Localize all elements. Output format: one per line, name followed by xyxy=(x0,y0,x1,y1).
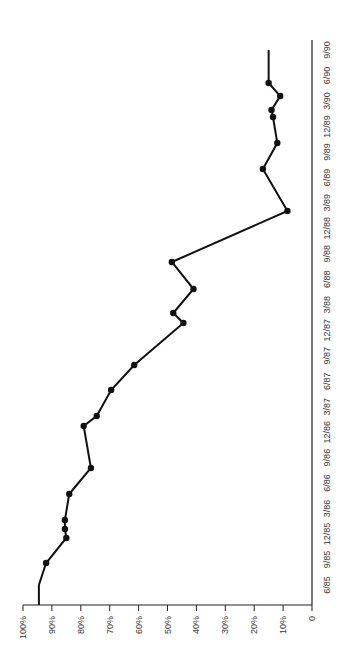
svg-text:12/85: 12/85 xyxy=(322,523,332,546)
chart: 010%20%30%40%50%60%70%80%90%100%6/859/85… xyxy=(0,0,346,669)
svg-text:6/85: 6/85 xyxy=(322,576,332,594)
svg-text:3/86: 3/86 xyxy=(322,500,332,518)
svg-text:3/87: 3/87 xyxy=(322,398,332,416)
svg-text:60%: 60% xyxy=(134,616,144,634)
svg-text:6/90: 6/90 xyxy=(322,67,332,85)
svg-text:12/88: 12/88 xyxy=(322,217,332,240)
svg-text:70%: 70% xyxy=(105,616,115,634)
svg-text:9/90: 9/90 xyxy=(322,41,332,59)
svg-text:9/85: 9/85 xyxy=(322,551,332,569)
svg-text:20%: 20% xyxy=(249,616,259,634)
svg-text:40%: 40% xyxy=(191,616,201,634)
svg-text:80%: 80% xyxy=(76,616,86,634)
svg-text:12/87: 12/87 xyxy=(322,319,332,342)
svg-text:10%: 10% xyxy=(278,616,288,634)
svg-text:30%: 30% xyxy=(220,616,230,634)
svg-text:12/89: 12/89 xyxy=(322,115,332,138)
svg-text:90%: 90% xyxy=(47,616,57,634)
svg-text:50%: 50% xyxy=(163,616,173,634)
svg-text:12/86: 12/86 xyxy=(322,421,332,444)
svg-text:6/87: 6/87 xyxy=(322,372,332,390)
svg-text:9/87: 9/87 xyxy=(322,347,332,365)
svg-text:9/89: 9/89 xyxy=(322,143,332,161)
line-chart: 010%20%30%40%50%60%70%80%90%100%6/859/85… xyxy=(0,0,346,669)
svg-text:9/88: 9/88 xyxy=(322,245,332,263)
svg-text:6/88: 6/88 xyxy=(322,271,332,289)
svg-text:3/88: 3/88 xyxy=(322,296,332,314)
svg-text:3/90: 3/90 xyxy=(322,92,332,110)
svg-text:6/86: 6/86 xyxy=(322,474,332,492)
svg-text:6/89: 6/89 xyxy=(322,169,332,187)
svg-text:3/89: 3/89 xyxy=(322,194,332,212)
svg-text:9/86: 9/86 xyxy=(322,449,332,467)
svg-text:0: 0 xyxy=(307,616,317,621)
svg-text:100%: 100% xyxy=(18,616,28,639)
